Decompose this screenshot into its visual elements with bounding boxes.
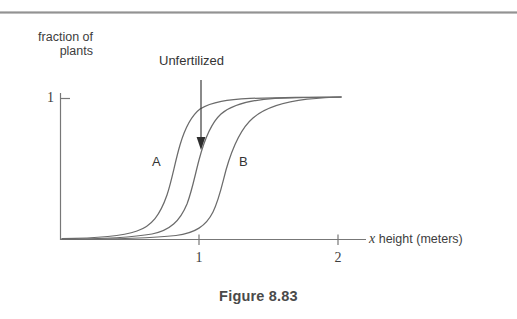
figure-caption: Figure 8.83 [0,288,517,304]
unfertilized-annotation-label: Unfertilized [159,54,224,69]
x-axis-label-text: height (meters) [375,232,463,246]
y-axis-title-line2: plants [0,44,93,58]
curve-label-a: A [152,155,161,170]
figure-container: fraction of plants 1 1 2 x height (meter… [0,0,517,319]
curve-label-b: B [239,155,248,170]
x-tick-label-2: 2 [330,250,346,266]
x-tick-label-1: 1 [191,250,207,266]
y-tick-label-1: 1 [38,90,54,106]
x-axis-label: x height (meters) [369,231,463,247]
y-axis-title: fraction of plants [0,30,93,59]
y-axis-title-line1: fraction of [38,30,93,44]
